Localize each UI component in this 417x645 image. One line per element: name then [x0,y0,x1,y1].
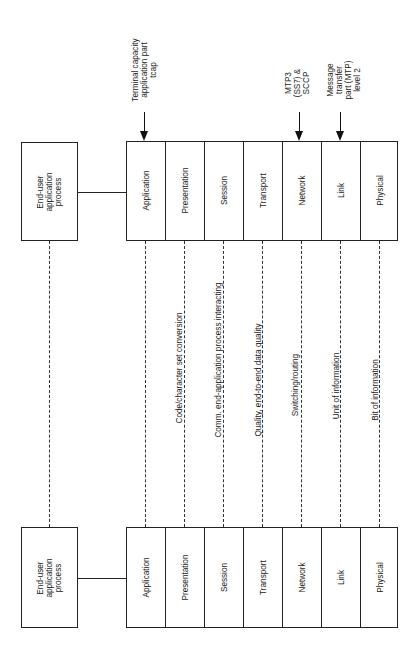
service-label-transport: Quality, end-to-end data quality [254,314,264,446]
service-label-physical: Bit of information [371,347,381,433]
layer-label: Application [142,151,151,231]
annotation-mtp3-text: MTP3 (SS7) & SCCP [284,55,314,111]
annotation-line: tcap [149,20,158,120]
label-line: process [54,143,63,242]
end-user-label: End-user application process [36,529,64,628]
label-line: End-user [36,143,45,242]
layer-stack-top: Application Presentation Session Transpo… [126,141,398,241]
service-label-network: Switching/routing [291,345,301,425]
layer-network: Network [283,142,322,240]
layer-presentation: Presentation [166,142,205,240]
label-line: application [45,529,54,628]
end-user-box-top: End-user application process [21,142,78,241]
end-user-box-bottom: End-user application process [21,527,78,628]
annotation-line: SCCP [302,55,311,111]
layer-session: Session [205,528,244,627]
layer-network: Network [283,528,322,627]
annotation-line: (SS7) & [293,55,302,111]
label-line: application [45,143,54,242]
layer-label: Transport [259,537,268,617]
service-label-presentation: Code/character set conversion [175,303,185,433]
layer-label: Presentation [181,537,190,617]
annotation-line: application part [140,20,149,120]
annotation-line: part (MTP) [344,50,353,110]
layer-label: Presentation [181,151,190,231]
arrow-down-icon [295,131,303,141]
arrow-down-icon [140,131,148,141]
layer-label: Application [142,537,151,617]
layer-label: Network [298,537,307,617]
service-label-session: Comm. end-application process interactin… [214,270,224,450]
annotation-line: MTP3 [284,55,293,111]
layer-link: Link [322,528,361,627]
layer-presentation: Presentation [166,528,205,627]
peer-line-end-user [49,241,50,527]
layer-label: Session [220,537,229,617]
arrow-shaft [299,112,300,132]
layer-label: Session [220,151,229,231]
connector-line-bottom [78,578,126,579]
annotation-tcap-text: Terminal capacity application part tcap [131,20,161,120]
arrow-shaft [340,112,341,132]
layer-application: Application [127,528,166,627]
layer-link: Link [322,142,361,240]
layer-transport: Transport [244,142,283,240]
layer-label: Physical [376,537,385,617]
layer-session: Session [205,142,244,240]
peer-line-network [301,241,302,527]
annotation-line: Message [326,50,335,110]
annotation-mtp2-text: Message transfer part (MTP) level 2 [326,50,366,110]
layer-application: Application [127,142,166,240]
service-label-link: Unit of information [332,343,342,429]
annotation-line: transfer [335,50,344,110]
peer-line-application [145,241,146,527]
annotation-line: Terminal capacity [131,20,140,120]
label-line: process [54,529,63,628]
layer-physical: Physical [361,528,399,627]
layer-label: Physical [376,151,385,231]
connector-line-top [78,192,126,193]
layer-physical: Physical [361,142,399,240]
arrow-down-icon [336,131,344,141]
end-user-label: End-user application process [36,143,64,242]
layer-label: Transport [259,151,268,231]
label-line: End-user [36,529,45,628]
arrow-shaft [144,112,145,132]
layer-label: Network [298,151,307,231]
annotation-line: level 2 [353,50,362,110]
layer-label: Link [337,537,346,617]
layer-label: Link [337,151,346,231]
layer-transport: Transport [244,528,283,627]
layer-stack-bottom: Application Presentation Session Transpo… [126,527,398,628]
